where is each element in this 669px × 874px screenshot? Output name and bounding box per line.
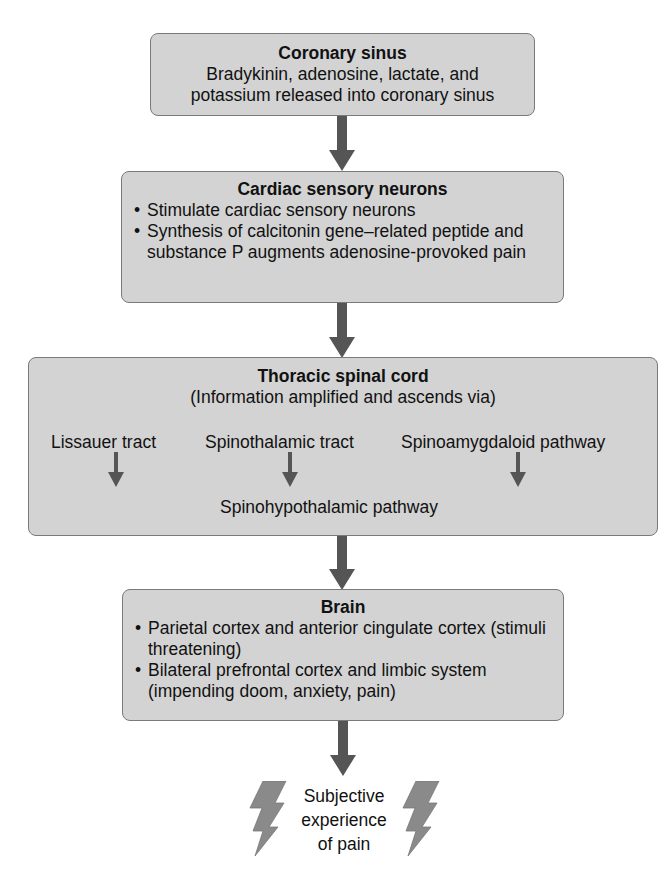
brain-box: Brain Parietal cortex and anterior cingu… (122, 589, 564, 721)
coronary-sinus-line-1: Bradykinin, adenosine, lactate, and (151, 64, 534, 85)
thoracic-spinal-cord-subtitle: (Information amplified and ascends via) (29, 387, 657, 408)
arrow-down-icon (328, 536, 356, 591)
brain-title: Brain (133, 597, 553, 618)
arrow-down-icon (328, 303, 356, 359)
outcome-line-2: experience (287, 808, 401, 832)
coronary-sinus-box: Coronary sinus Bradykinin, adenosine, la… (150, 33, 535, 116)
small-arrow-down-icon (510, 452, 526, 488)
thoracic-spinal-cord-title: Thoracic spinal cord (29, 366, 657, 387)
coronary-sinus-line-2: potassium released into coronary sinus (151, 85, 534, 106)
cardiac-bullet-1: Stimulate cardiac sensory neurons (132, 200, 553, 221)
cardiac-sensory-neurons-box: Cardiac sensory neurons Stimulate cardia… (121, 171, 564, 303)
tract-spinothalamic: Spinothalamic tract (205, 432, 354, 453)
cardiac-sensory-neurons-list: Stimulate cardiac sensory neurons Synthe… (132, 200, 553, 263)
tract-spinoamygdaloid: Spinoamygdaloid pathway (401, 432, 605, 453)
lightning-bolt-icon (249, 781, 287, 857)
small-arrow-down-icon (282, 452, 298, 488)
arrow-down-icon (328, 116, 356, 172)
thoracic-spinal-cord-box: Thoracic spinal cord (Information amplif… (28, 357, 658, 536)
outcome-text: Subjective experience of pain (287, 784, 401, 856)
outcome-line-1: Subjective (287, 784, 401, 808)
spinohypothalamic-pathway: Spinohypothalamic pathway (220, 497, 438, 518)
small-arrow-down-icon (108, 452, 124, 488)
brain-list: Parietal cortex and anterior cingulate c… (133, 618, 553, 702)
brain-bullet-1: Parietal cortex and anterior cingulate c… (133, 618, 553, 660)
arrow-down-icon (329, 721, 357, 777)
brain-bullet-2: Bilateral prefrontal cortex and limbic s… (133, 660, 553, 702)
cardiac-bullet-2: Synthesis of calcitonin gene–related pep… (132, 221, 553, 263)
coronary-sinus-title: Coronary sinus (151, 43, 534, 64)
lightning-bolt-icon (402, 781, 440, 857)
cardiac-sensory-neurons-title: Cardiac sensory neurons (132, 179, 553, 200)
outcome-line-3: of pain (287, 832, 401, 856)
tract-lissauer: Lissauer tract (51, 432, 156, 453)
